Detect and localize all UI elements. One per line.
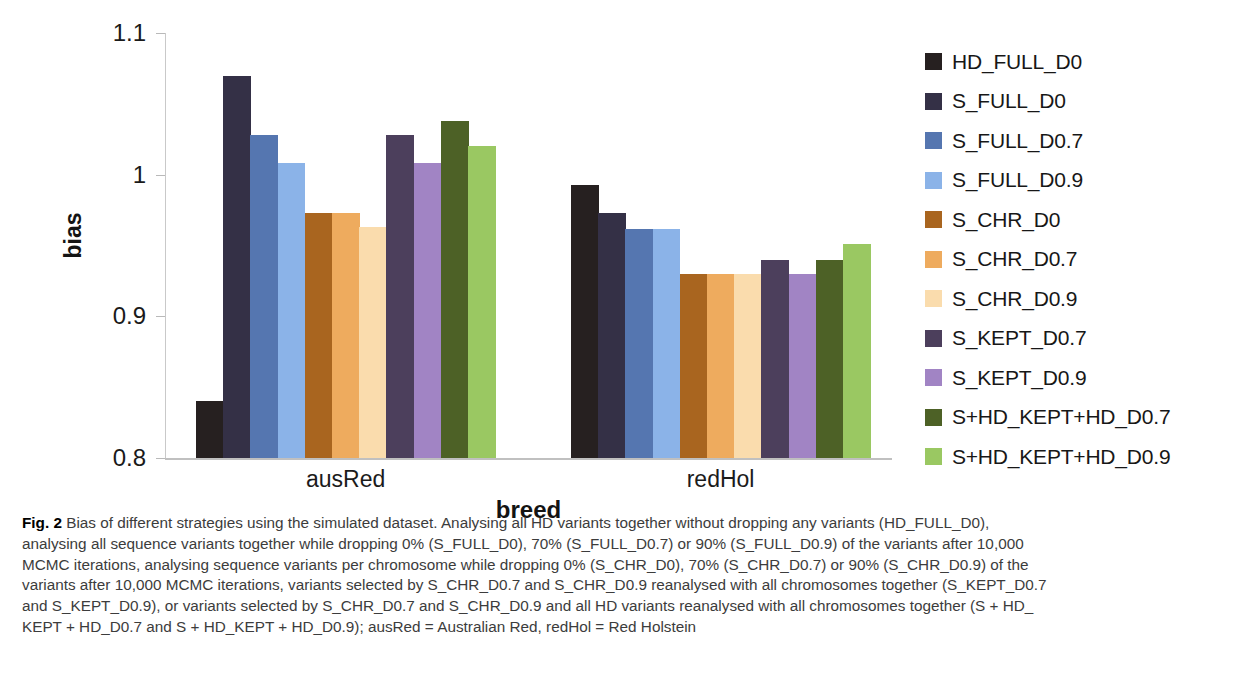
legend-swatch-icon [925, 290, 942, 307]
bar[interactable] [305, 213, 333, 458]
y-tick-mark [156, 458, 165, 459]
legend-swatch-icon [925, 211, 942, 228]
y-axis-label: bias [60, 191, 87, 281]
legend-swatch-icon [925, 132, 942, 149]
bar[interactable] [414, 163, 442, 458]
bar[interactable] [653, 229, 681, 459]
bar[interactable] [196, 401, 224, 458]
legend-label: S+HD_KEPT+HD_D0.7 [952, 405, 1170, 429]
legend-label: S_CHR_D0.7 [952, 247, 1077, 271]
legend-swatch-icon [925, 172, 942, 189]
legend-swatch-icon [925, 369, 942, 386]
bars-plot-area [165, 33, 892, 458]
bar-group [571, 33, 870, 458]
bar[interactable] [625, 229, 653, 459]
legend-swatch-icon [925, 53, 942, 70]
caption-line: KEPT + HD_D0.7 and S + HD_KEPT + HD_D0.9… [22, 617, 1230, 638]
legend-label: S_CHR_D0 [952, 208, 1060, 232]
legend-item[interactable]: HD_FULL_D0 [925, 42, 1250, 82]
legend-item[interactable]: S_CHR_D0.7 [925, 240, 1250, 280]
legend-swatch-icon [925, 448, 942, 465]
bar[interactable] [843, 244, 871, 458]
y-tick-mark [156, 316, 165, 317]
y-axis-tick-labels: 0.80.911.1 [92, 0, 154, 500]
y-tick-label: 0.8 [113, 446, 146, 470]
caption-line: and S_KEPT_D0.9), or variants selected b… [22, 596, 1230, 617]
legend-label: S_FULL_D0.7 [952, 129, 1083, 153]
x-axis-line [165, 458, 892, 460]
legend-label: S+HD_KEPT+HD_D0.9 [952, 445, 1170, 469]
legend-label: S_KEPT_D0.7 [952, 326, 1086, 350]
figure-2-bias-chart: bias 0.80.911.1 breed ausRedredHol HD_FU… [0, 0, 1250, 683]
caption-line: variants after 10,000 MCMC iterations, v… [22, 575, 1230, 596]
bar[interactable] [680, 274, 708, 458]
bar[interactable] [598, 213, 626, 458]
bar[interactable] [734, 274, 762, 458]
bar[interactable] [278, 163, 306, 458]
y-tick-label: 1.1 [113, 21, 146, 45]
x-tick-label: ausRed [196, 466, 495, 493]
legend-item[interactable]: S_FULL_D0.9 [925, 161, 1250, 201]
x-tick-label: redHol [571, 466, 870, 493]
legend-item[interactable]: S_FULL_D0.7 [925, 121, 1250, 161]
figure-caption: Fig. 2 Bias of different strategies usin… [22, 513, 1230, 638]
legend-label: S_KEPT_D0.9 [952, 366, 1086, 390]
y-tick-mark [156, 33, 165, 34]
caption-line: analysing all sequence variants together… [22, 534, 1230, 555]
legend-label: S_FULL_D0.9 [952, 168, 1083, 192]
bar[interactable] [250, 135, 278, 458]
bar[interactable] [468, 146, 496, 458]
bar[interactable] [332, 213, 360, 458]
bar[interactable] [571, 185, 599, 458]
y-tick-label: 1 [133, 163, 146, 187]
legend-swatch-icon [925, 93, 942, 110]
legend-swatch-icon [925, 251, 942, 268]
legend-label: S_CHR_D0.9 [952, 287, 1077, 311]
y-tick-mark [156, 175, 165, 176]
legend-item[interactable]: S_KEPT_D0.9 [925, 358, 1250, 398]
caption-line: Fig. 2 Bias of different strategies usin… [22, 513, 1230, 534]
y-tick-label: 0.9 [113, 304, 146, 328]
bar[interactable] [386, 135, 414, 458]
bar[interactable] [761, 260, 789, 458]
caption-figure-number: Fig. 2 [22, 514, 62, 531]
legend-item[interactable]: S_KEPT_D0.7 [925, 319, 1250, 359]
legend: HD_FULL_D0S_FULL_D0S_FULL_D0.7S_FULL_D0.… [925, 42, 1250, 477]
legend-swatch-icon [925, 330, 942, 347]
legend-label: HD_FULL_D0 [952, 50, 1082, 74]
bar[interactable] [359, 227, 387, 458]
bar[interactable] [789, 274, 817, 458]
bar[interactable] [441, 121, 469, 458]
legend-item[interactable]: S+HD_KEPT+HD_D0.7 [925, 398, 1250, 438]
legend-item[interactable]: S_CHR_D0 [925, 200, 1250, 240]
caption-line: MCMC iterations, analysing sequence vari… [22, 555, 1230, 576]
legend-item[interactable]: S+HD_KEPT+HD_D0.9 [925, 437, 1250, 477]
legend-label: S_FULL_D0 [952, 89, 1066, 113]
legend-item[interactable]: S_FULL_D0 [925, 82, 1250, 122]
bar[interactable] [816, 260, 844, 458]
bar-group [196, 33, 495, 458]
bar[interactable] [223, 76, 251, 459]
bar[interactable] [707, 274, 735, 458]
legend-swatch-icon [925, 409, 942, 426]
legend-item[interactable]: S_CHR_D0.9 [925, 279, 1250, 319]
